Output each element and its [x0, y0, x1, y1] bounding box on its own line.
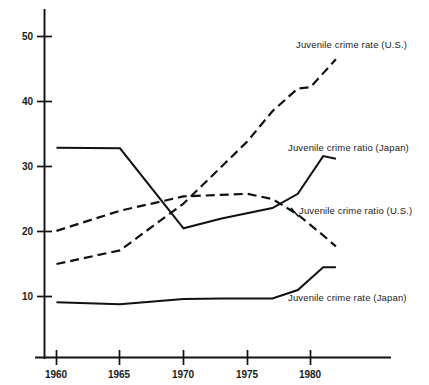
y-tick-label: 10: [22, 291, 34, 302]
x-tick-label: 1965: [108, 369, 131, 380]
x-tick-label: 1980: [299, 369, 322, 380]
y-tick-label: 50: [22, 31, 34, 42]
y-tick-label: 20: [22, 226, 34, 237]
annotation-juvenile-crime-rate-japan: Juvenile crime rate (Japan): [288, 292, 407, 303]
juvenile-crime-line-chart: 50 40 30 20 10 1960 1965 1970 1975 1980: [0, 0, 429, 385]
annotation-juvenile-crime-ratio-japan: Juvenile crime ratio (Japan): [288, 142, 409, 153]
y-tick-label: 30: [22, 161, 34, 172]
x-tick-label: 1960: [45, 369, 68, 380]
x-tick-label: 1975: [236, 369, 259, 380]
x-tick-label: 1970: [172, 369, 195, 380]
annotation-juvenile-crime-ratio-us: Juvenile crime ratio (U.S.): [299, 205, 412, 216]
chart-canvas: 50 40 30 20 10 1960 1965 1970 1975 1980: [0, 0, 429, 385]
chart-background: [0, 0, 429, 385]
y-tick-label: 40: [22, 96, 34, 107]
annotation-juvenile-crime-rate-us: Juvenile crime rate (U.S.): [296, 39, 407, 50]
